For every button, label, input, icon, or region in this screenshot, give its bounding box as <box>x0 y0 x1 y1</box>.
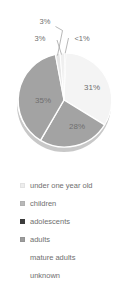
legend-label: children <box>30 199 56 208</box>
chart-legend: under one year old children adolescents … <box>0 176 128 283</box>
legend-item-mature-adults[interactable]: mature adults <box>0 248 128 266</box>
leader-line-children <box>57 40 62 55</box>
legend-swatch-icon <box>20 201 25 206</box>
legend-label: adults <box>30 235 50 244</box>
legend-item-unknown[interactable]: unknown <box>0 266 128 283</box>
legend-label: unknown <box>30 271 60 280</box>
pie-plot-area: 3% 3% <1% 31% 28% 35% <box>0 0 128 170</box>
pie-label-adolescents: <1% <box>74 34 90 43</box>
legend-swatch-icon <box>20 255 25 260</box>
pie-svg: 3% 3% <1% 31% 28% 35% <box>0 0 128 170</box>
legend-item-adolescents[interactable]: adolescents <box>0 212 128 230</box>
legend-label: mature adults <box>30 253 75 262</box>
legend-swatch-icon <box>20 183 25 188</box>
pie-slices <box>18 53 112 147</box>
pie-chart-figure: 3% 3% <1% 31% 28% 35% under one year old… <box>0 0 128 283</box>
legend-label: under one year old <box>30 181 93 190</box>
legend-swatch-icon <box>20 237 25 242</box>
pie-label-children: 3% <box>35 34 46 43</box>
legend-label: adolescents <box>30 217 70 226</box>
leader-line-adolescents <box>65 38 68 53</box>
pie-leader-lines <box>56 27 69 56</box>
pie-label-adults: 31% <box>84 83 100 92</box>
pie-label-mature-adults: 28% <box>69 122 85 131</box>
legend-swatch-icon <box>20 273 25 278</box>
legend-item-under-one-year-old[interactable]: under one year old <box>0 176 128 194</box>
legend-item-adults[interactable]: adults <box>0 230 128 248</box>
leader-line-under-one-year-old <box>56 27 63 56</box>
legend-swatch-icon <box>20 219 25 224</box>
legend-item-children[interactable]: children <box>0 194 128 212</box>
pie-label-under-one-year-old: 3% <box>40 17 51 26</box>
pie-label-unknown: 35% <box>35 96 51 105</box>
